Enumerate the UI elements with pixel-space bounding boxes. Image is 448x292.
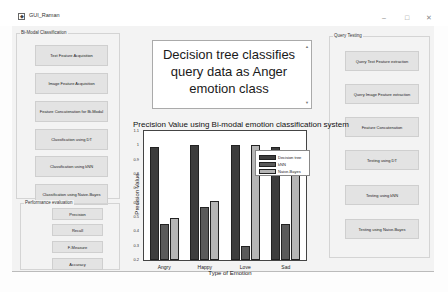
chart-title: Precision Value using Bi-modal emotion c…: [133, 120, 349, 129]
y-tick-label: 0.6: [125, 200, 139, 205]
bar-love-decision-tree: [231, 145, 240, 260]
result-text: Decision tree classifies query data as A…: [159, 46, 299, 97]
testing-knn-button[interactable]: Testing using kNN: [345, 185, 419, 205]
x-tick-label: Angry: [149, 264, 179, 270]
legend-swatch: [259, 162, 276, 167]
performance-evaluation-panel: Performance evaluation Precision Recall …: [20, 203, 120, 270]
figure-client-area: Bi-Modal Classification Text Feature Acq…: [12, 26, 434, 272]
bimodal-classification-panel: Bi-Modal Classification Text Feature Acq…: [16, 33, 120, 199]
bar-happy-naive-bayes: [210, 201, 219, 260]
matlab-figure-icon: ◆: [18, 13, 25, 20]
bar-angry-knn: [160, 224, 169, 260]
recall-button[interactable]: Recall: [52, 224, 103, 236]
precision-button[interactable]: Precision: [52, 208, 103, 220]
legend-swatch: [259, 155, 276, 160]
bar-angry-decision-tree: [150, 147, 159, 260]
result-textbox[interactable]: Decision tree classifies query data as A…: [152, 40, 312, 109]
bar-love-knn: [241, 246, 250, 260]
chart-legend: Decision tree kNN Naive-Bayes: [255, 150, 310, 176]
testing-dt-button[interactable]: Testing using DT: [345, 150, 419, 170]
f-measure-button[interactable]: F-Measure: [52, 241, 103, 253]
close-button[interactable]: ✕: [426, 14, 432, 22]
y-tick-label: 0.8: [125, 171, 139, 176]
classification-knn-button[interactable]: Classification using kNN: [35, 156, 108, 177]
testing-naive-bayes-button[interactable]: Testing using Naive-Bayes: [345, 219, 419, 239]
maximize-button[interactable]: □: [405, 14, 409, 22]
y-tick-label: 1.1: [125, 128, 139, 133]
image-feature-acquisition-button[interactable]: Image Feature Acquisition: [35, 73, 108, 94]
y-tick-label: 0.4: [125, 228, 139, 233]
y-tick-label: 0.5: [125, 214, 139, 219]
minimize-button[interactable]: –: [382, 14, 386, 22]
x-axis-label: Type of Emotion: [185, 270, 275, 276]
legend-item-naive-bayes: Naive-Bayes: [259, 168, 301, 174]
bar-sad-knn: [281, 224, 290, 260]
panel-label: Bi-Modal Classification: [20, 30, 68, 36]
y-tick-label: 0.7: [125, 185, 139, 190]
panel-label: Performance evaluation: [24, 200, 74, 206]
feature-concatenation-button[interactable]: Feature Concatenation: [345, 117, 419, 137]
query-image-feature-extraction-button[interactable]: Query Image Feature extraction: [345, 84, 419, 104]
panel-label: Query Testing: [333, 33, 363, 39]
y-tick-label: 0.9: [125, 157, 139, 162]
y-tick-label: 0.2: [125, 257, 139, 262]
y-tick-label: 1: [125, 142, 139, 147]
legend-item-decision-tree: Decision tree: [259, 154, 301, 160]
scroll-up-icon[interactable]: ▲: [305, 44, 309, 49]
query-testing-panel: Query Testing Query Text Feature extract…: [329, 36, 430, 258]
y-tick-label: 0.3: [125, 243, 139, 248]
scroll-down-icon[interactable]: ▼: [305, 100, 309, 105]
x-tick-label: Sad: [271, 264, 301, 270]
bar-happy-knn: [200, 207, 209, 260]
title-bar: ◆ GUI_Raman – □ ✕: [0, 0, 448, 26]
legend-swatch: [259, 169, 276, 174]
feature-concatenation-bimodal-button[interactable]: Feature Concatenation for Bi-Modal: [35, 101, 108, 122]
classification-dt-button[interactable]: Classification using DT: [35, 129, 108, 150]
window-title: GUI_Raman: [29, 12, 60, 18]
bar-angry-naive-bayes: [170, 218, 179, 260]
app-window: ◆ GUI_Raman – □ ✕ Bi-Modal Classificatio…: [0, 0, 448, 292]
legend-item-knn: kNN: [259, 161, 286, 167]
query-text-feature-extraction-button[interactable]: Query Text Feature extraction: [345, 51, 419, 71]
text-feature-acquisition-button[interactable]: Text Feature Acquisition: [35, 45, 108, 66]
bar-happy-decision-tree: [190, 145, 199, 260]
accuracy-button[interactable]: Accuracy: [52, 258, 103, 270]
